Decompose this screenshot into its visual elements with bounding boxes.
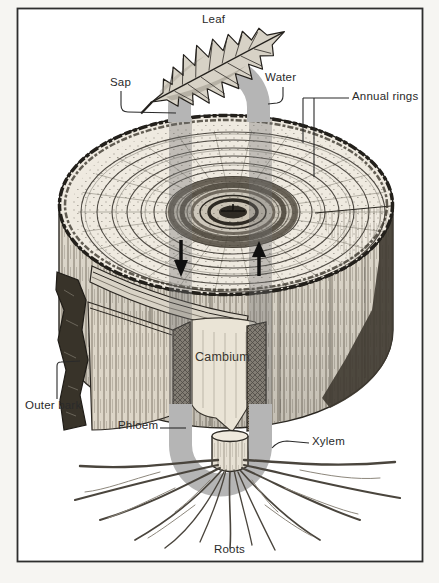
label-water: Water — [265, 72, 296, 84]
label-outer-bark: Outer bark — [25, 400, 81, 412]
textbook-figure: Leaf Sap Water Annual rings Cambium Oute… — [0, 0, 439, 583]
label-annual-rings: Annual rings — [352, 91, 418, 103]
label-sap: Sap — [110, 77, 131, 89]
label-leaf: Leaf — [202, 14, 225, 26]
label-roots: Roots — [214, 544, 245, 556]
label-phloem: Phloem — [118, 420, 158, 432]
label-cambium: Cambium — [195, 351, 250, 364]
tree-trunk-diagram — [0, 0, 439, 583]
label-xylem: Xylem — [312, 436, 345, 448]
trunk-top-rings — [59, 115, 393, 295]
